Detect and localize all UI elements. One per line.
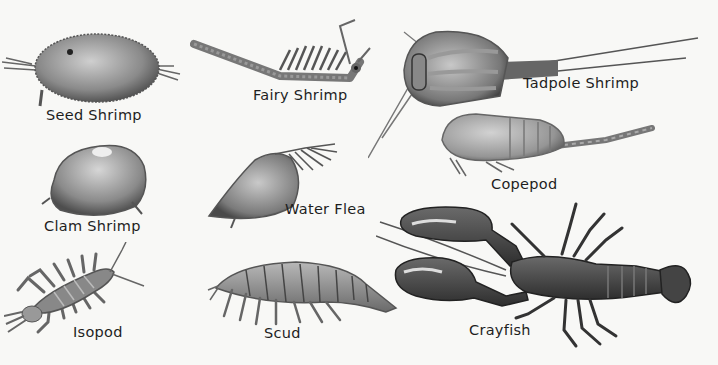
fairy-shrimp-label: Fairy Shrimp (253, 88, 347, 103)
isopod-label: Isopod (73, 325, 123, 340)
copepod-label: Copepod (491, 177, 558, 192)
seed-shrimp-label: Seed Shrimp (46, 108, 142, 123)
scud-illustration (206, 260, 401, 330)
crayfish-label: Crayfish (469, 323, 531, 338)
crayfish-illustration (376, 200, 706, 350)
clam-shrimp-illustration (40, 140, 160, 220)
water-flea-label: Water Flea (285, 202, 366, 217)
fairy-shrimp-illustration (190, 18, 375, 83)
tadpole-shrimp-label: Tadpole Shrimp (523, 76, 639, 91)
clam-shrimp-label: Clam Shrimp (44, 219, 141, 234)
seed-shrimp-illustration (2, 28, 187, 108)
scud-label: Scud (264, 326, 301, 341)
copepod-illustration (436, 110, 661, 180)
isopod-illustration (4, 242, 149, 337)
crustacean-plate: Seed Shrimp Fairy Shrimp (0, 0, 718, 365)
